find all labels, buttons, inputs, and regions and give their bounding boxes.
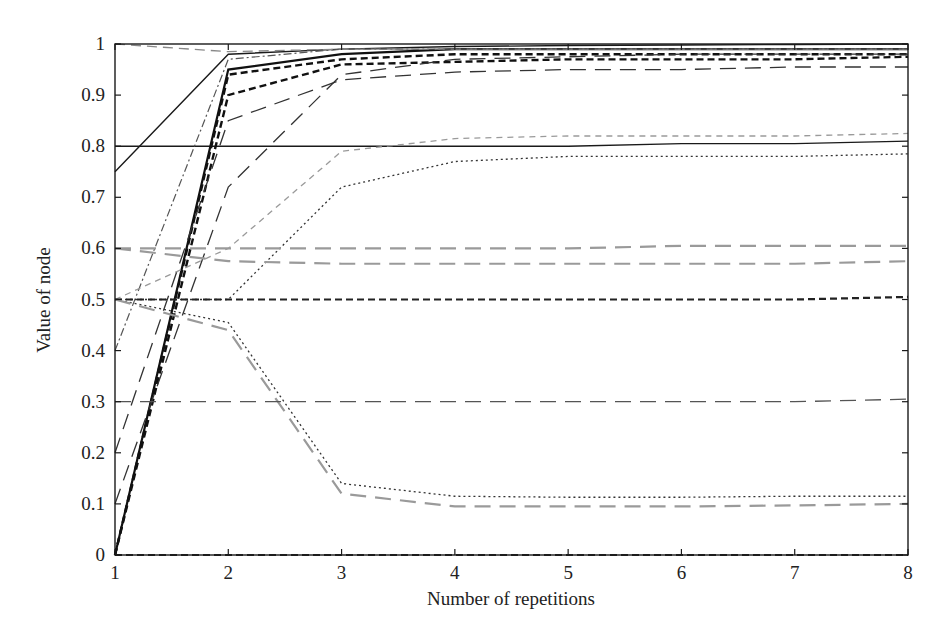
x-axis-title: Number of repetitions [427,588,595,609]
x-tick-label: 1 [110,562,120,583]
series-layer [115,44,908,555]
y-tick-label: 0.5 [81,289,105,310]
x-tick-label: 4 [450,562,460,583]
y-tick-label: 1 [96,33,106,54]
y-axis-title: Value of node [33,247,54,353]
series-line-s2 [115,141,908,146]
x-tick-label: 5 [563,562,573,583]
y-tick-label: 0.7 [81,186,105,207]
x-tick-label: 7 [790,562,800,583]
series-line-s1 [115,44,908,172]
series-line-s15 [115,300,908,498]
series-line-s17 [115,399,908,402]
x-tick-label: 6 [677,562,687,583]
y-tick-label: 0.1 [81,493,105,514]
y-tick-label: 0.8 [81,135,105,156]
y-tick-label: 0.4 [81,340,105,361]
y-tick-label: 0.6 [81,237,105,258]
x-tick-label: 3 [337,562,347,583]
series-line-s5 [115,57,908,555]
series-line-s3 [115,49,908,555]
series-line-s12 [115,246,908,249]
series-line-s7 [115,54,908,504]
line-chart: 1234567800.10.20.30.40.50.60.70.80.91 Nu… [0,0,943,636]
series-line-s6 [115,67,908,453]
series-line-s13 [115,248,908,263]
series-line-s4 [115,54,908,555]
series-line-s11 [115,154,908,300]
y-tick-label: 0.3 [81,391,105,412]
series-line-s14 [115,297,908,300]
x-tick-label: 8 [903,562,913,583]
y-tick-label: 0.2 [81,442,105,463]
y-tick-label: 0.9 [81,84,105,105]
x-tick-label: 2 [224,562,234,583]
y-tick-label: 0 [96,544,106,565]
